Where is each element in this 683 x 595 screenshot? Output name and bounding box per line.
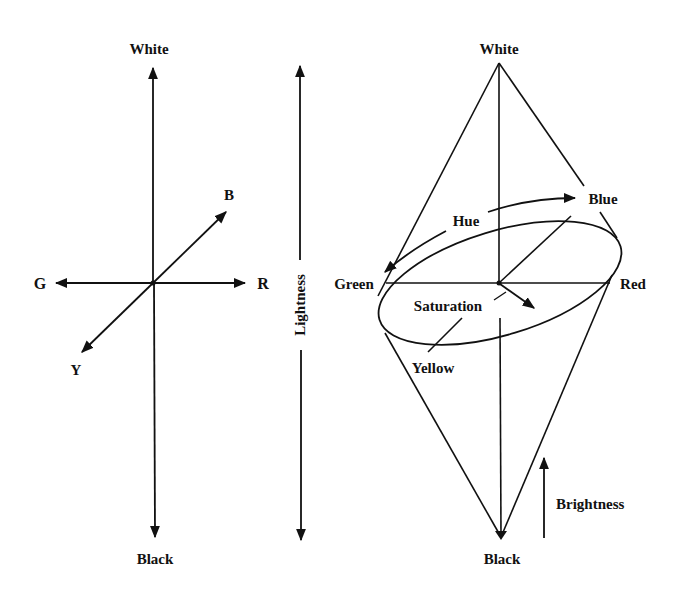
opponent-axes-diagram: White Black G R B Y: [34, 41, 269, 567]
b-label: B: [224, 187, 234, 203]
left-black-label: Black: [137, 551, 174, 567]
saturation-label: Saturation: [414, 298, 483, 314]
upper-cone-left-edge: [378, 63, 499, 296]
blue-label: Blue: [588, 191, 618, 207]
upper-cone-right-edge: [499, 63, 584, 186]
lightness-scale: Lightness: [292, 66, 308, 540]
hue-label: Hue: [453, 213, 480, 229]
green-label: Green: [334, 276, 374, 292]
blue-axis: [153, 212, 226, 283]
saturation-arrow: [500, 284, 534, 308]
right-black-label: Black: [484, 551, 521, 567]
black-apex: [495, 531, 507, 540]
color-space-diagram: White Black G R B Y Lightness: [0, 0, 683, 595]
double-cone-diagram: White Black Green Red Blue Yellow Hue Sa…: [334, 41, 646, 567]
r-label: R: [257, 275, 269, 292]
yellow-radius: [428, 318, 462, 352]
hue-arrow-right: [488, 198, 575, 212]
right-white-label: White: [479, 41, 519, 57]
left-white-label: White: [129, 41, 169, 57]
origin-point: [151, 281, 156, 286]
y-label: Y: [71, 362, 82, 378]
upper-cone-right-edge-lower: [600, 212, 617, 238]
lightness-axis-center-lower: [500, 318, 501, 537]
lightness-label: Lightness: [292, 274, 308, 336]
red-label: Red: [620, 276, 646, 292]
saturation-tick: [494, 292, 506, 300]
brightness-label: Brightness: [556, 496, 625, 512]
yellow-label: Yellow: [412, 360, 455, 376]
lightness-vertical-axis-down: [154, 283, 155, 537]
g-label: G: [34, 275, 47, 292]
yellow-axis: [82, 283, 153, 352]
